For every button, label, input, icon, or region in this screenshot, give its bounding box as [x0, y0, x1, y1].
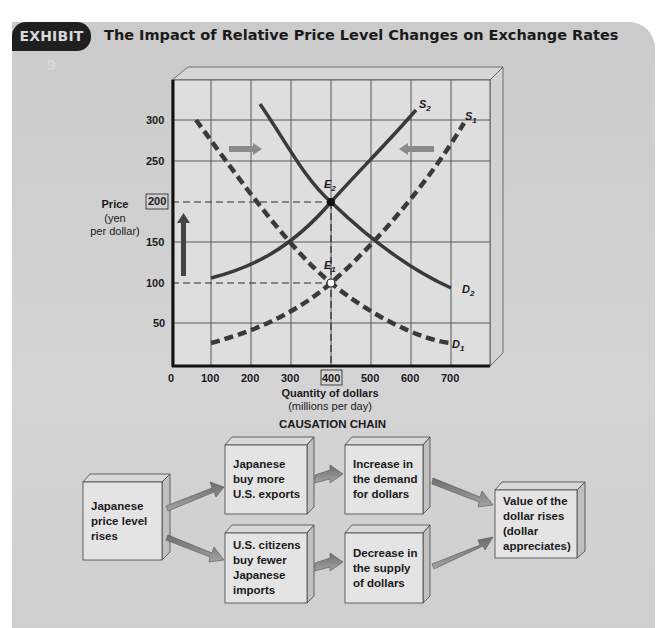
y-tick-50: 50: [153, 317, 165, 329]
x-tick-500: 500: [361, 372, 379, 384]
y-tick-100: 100: [146, 277, 164, 289]
chain-box-price-level-rises: Japanese price level rises: [83, 482, 162, 560]
plot-frame: [172, 67, 503, 366]
y-tick-200: 200: [148, 195, 166, 207]
y-tick-250: 250: [146, 155, 164, 167]
equilibrium-label-E2: E2: [324, 178, 336, 193]
y-axis-title: Price: [95, 198, 135, 210]
y-axis-subtitle-1: (yen: [90, 212, 140, 224]
x-tick-400: 400: [322, 372, 340, 384]
y-tick-300: 300: [146, 114, 164, 126]
chain-box-demand-increase: Increase in the demand for dollars: [345, 445, 423, 514]
chain-box-buy-fewer-imports: U.S. citizens buy fewer Japanese imports: [225, 533, 307, 603]
curve-label-S2: S2: [419, 98, 431, 113]
chain-box-dollar-appreciates: Value of the dollar rises (dollar apprec…: [495, 490, 577, 558]
equilibrium-label-E1: E1: [324, 259, 336, 274]
x-tick-700: 700: [441, 372, 459, 384]
chain-box-buy-more-exports: Japanese buy more U.S. exports: [225, 445, 307, 514]
curve-label-S1: S1: [465, 110, 477, 125]
curve-label-D1: D1: [452, 338, 464, 353]
x-tick-200: 200: [241, 372, 259, 384]
equilibrium-E1-point: [327, 279, 335, 287]
arrow-imports-to-supply: [315, 553, 343, 571]
chain-box-supply-decrease: Decrease in the supply of dollars: [345, 533, 423, 603]
equilibrium-E2-point: [327, 198, 335, 206]
x-tick-0: 0: [168, 372, 174, 384]
x-tick-300: 300: [281, 372, 299, 384]
arrow-exports-to-demand: [315, 465, 343, 483]
y-tick-150: 150: [146, 236, 164, 248]
arrow-supply-to-result: [432, 537, 493, 569]
y-axis-subtitle-2: per dollar): [80, 225, 150, 237]
x-tick-600: 600: [401, 372, 419, 384]
x-axis-title: Quantity of dollars: [270, 387, 390, 399]
curve-label-D2: D2: [462, 283, 474, 298]
causation-chain-title: CAUSATION CHAIN: [0, 418, 665, 430]
arrow-start-to-imports: [166, 535, 224, 562]
x-axis-subtitle: (millions per day): [270, 400, 390, 412]
x-tick-100: 100: [201, 372, 219, 384]
arrow-demand-to-result: [432, 478, 493, 507]
chain-arrows: [166, 465, 493, 571]
arrow-start-to-exports: [166, 482, 224, 511]
